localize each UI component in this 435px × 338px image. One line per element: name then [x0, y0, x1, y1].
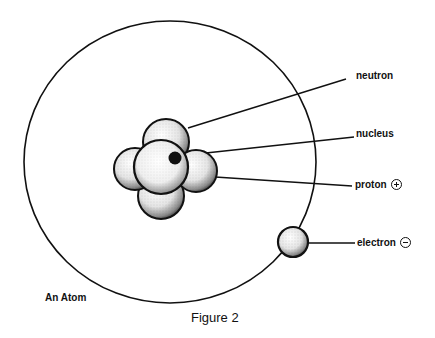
neutron-label: neutron [356, 71, 393, 81]
electron-label-group: electron [357, 237, 411, 248]
nucleus-cluster [114, 119, 217, 219]
atom-title-label: An Atom [45, 293, 86, 303]
proton-sphere-front [134, 140, 188, 194]
atom-diagram: neutron nucleus proton electron An Atom … [0, 0, 435, 338]
proton-leader-line [200, 176, 352, 186]
proton-label: proton [355, 179, 387, 190]
electron-label: electron [357, 237, 396, 248]
positive-charge-icon [391, 179, 402, 190]
negative-charge-icon [400, 237, 411, 248]
figure-caption: Figure 2 [191, 311, 239, 324]
atom-illustration [0, 0, 435, 338]
nucleus-label: nucleus [356, 129, 394, 139]
nucleus-center-dot [169, 152, 182, 165]
proton-label-group: proton [355, 179, 402, 190]
electron-particle [278, 227, 308, 257]
neutron-leader-line [188, 79, 346, 128]
